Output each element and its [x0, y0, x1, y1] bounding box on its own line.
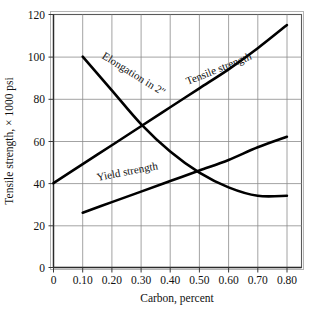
x-axis-title: Carbon, percent	[140, 292, 214, 305]
chart-background	[0, 0, 314, 313]
x-tick-label-0.30: 0.30	[131, 274, 151, 286]
x-tick-label-0.10: 0.10	[73, 274, 93, 286]
x-tick-label-0.80: 0.80	[277, 274, 297, 286]
x-tick-labels: 0 0.10 0.20 0.30 0.40 0.50 0.60 0.70 0.8…	[51, 274, 298, 286]
y-tick-label-20: 20	[34, 220, 46, 232]
carbon-percent-vs-strength-chart: 0 20 40 60 80 100 120 0 0.10 0.20 0.30 0…	[0, 0, 314, 313]
y-tick-label-100: 100	[28, 51, 46, 63]
x-tick-label-0: 0	[51, 274, 57, 286]
y-tick-label-40: 40	[34, 178, 46, 190]
x-tick-label-0.20: 0.20	[102, 274, 122, 286]
x-tick-label-0.60: 0.60	[219, 274, 239, 286]
x-tick-label-0.50: 0.50	[189, 274, 209, 286]
y-tick-label-120: 120	[28, 9, 46, 21]
y-tick-label-0: 0	[39, 262, 45, 274]
y-tick-label-80: 80	[34, 93, 46, 105]
x-tick-label-0.70: 0.70	[248, 274, 268, 286]
chart-figure: 0 20 40 60 80 100 120 0 0.10 0.20 0.30 0…	[0, 0, 314, 313]
y-axis-title: Tensile strength, × 1000 psi	[3, 77, 16, 204]
y-tick-label-60: 60	[34, 136, 46, 148]
x-tick-label-0.40: 0.40	[160, 274, 180, 286]
